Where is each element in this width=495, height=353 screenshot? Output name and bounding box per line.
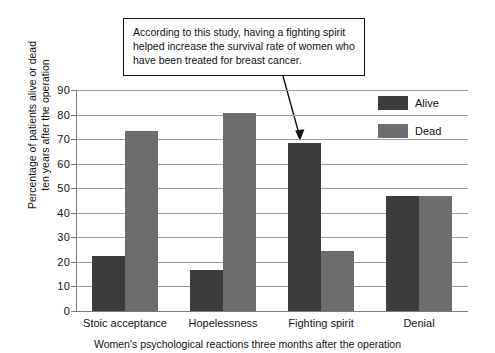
legend-swatch-alive xyxy=(378,96,408,110)
x-axis-title: Women's psychological reactions three mo… xyxy=(0,338,495,350)
category-label-hopelessness: Hopelessness xyxy=(174,318,272,329)
bar-hopelessness-alive xyxy=(190,270,223,311)
legend-label-alive: Alive xyxy=(415,98,439,109)
callout-line-3: have been treated for breast cancer. xyxy=(133,53,355,67)
category-label-stoic-acceptance: Stoic acceptance xyxy=(76,318,174,329)
bar-chart-figure: According to this study, having a fighti… xyxy=(0,0,495,353)
y-tick-mark-0 xyxy=(71,311,76,312)
y-tick-label-60: 60 xyxy=(57,159,70,170)
y-tick-mark-80 xyxy=(71,115,76,116)
y-tick-label-40: 40 xyxy=(57,208,70,219)
bar-hopelessness-dead xyxy=(223,113,256,311)
y-tick-mark-90 xyxy=(71,90,76,91)
category-label-fighting-spirit: Fighting spirit xyxy=(272,318,370,329)
y-tick-mark-70 xyxy=(71,139,76,140)
y-tick-label-20: 20 xyxy=(57,257,70,268)
gridline-0 xyxy=(76,311,468,312)
bar-denial-alive xyxy=(386,196,419,311)
y-tick-label-50: 50 xyxy=(57,183,70,194)
legend-swatch-dead xyxy=(378,124,408,138)
callout-line-1: According to this study, having a fighti… xyxy=(133,25,355,39)
bar-denial-dead xyxy=(419,196,452,311)
legend-label-dead: Dead xyxy=(415,126,441,137)
bar-fighting-spirit-dead xyxy=(321,251,354,311)
legend-item-alive: Alive xyxy=(378,93,474,113)
bar-stoic-acceptance-dead xyxy=(125,131,158,311)
y-tick-label-70: 70 xyxy=(57,134,70,145)
y-axis-title-line-1: Percentage of patients alive or dead xyxy=(26,20,39,230)
y-tick-label-80: 80 xyxy=(57,110,70,121)
y-tick-mark-20 xyxy=(71,262,76,263)
category-label-denial: Denial xyxy=(370,318,468,329)
bar-stoic-acceptance-alive xyxy=(92,256,125,311)
y-tick-label-10: 10 xyxy=(57,281,70,292)
y-tick-mark-30 xyxy=(71,237,76,238)
y-tick-mark-40 xyxy=(71,213,76,214)
callout-line-2: helped increase the survival rate of wom… xyxy=(133,39,355,53)
callout-annotation-box: According to this study, having a fighti… xyxy=(123,18,365,76)
y-tick-mark-60 xyxy=(71,164,76,165)
chart-legend: Alive Dead xyxy=(378,93,474,149)
gridline-90 xyxy=(76,90,468,91)
y-tick-mark-50 xyxy=(71,188,76,189)
y-tick-label-0: 0 xyxy=(64,306,70,317)
y-tick-mark-10 xyxy=(71,286,76,287)
bar-fighting-spirit-alive xyxy=(288,143,321,311)
y-axis-title: Percentage of patients alive or dead ten… xyxy=(26,20,52,230)
y-axis-title-line-2: ten years after the operation xyxy=(39,20,52,230)
y-tick-label-90: 90 xyxy=(57,85,70,96)
legend-item-dead: Dead xyxy=(378,121,474,141)
y-tick-label-30: 30 xyxy=(57,232,70,243)
